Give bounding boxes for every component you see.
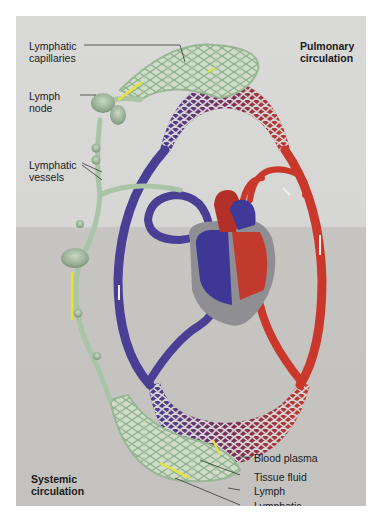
lymph-node-lower [61,248,89,268]
label-lymphatic-capillaries-bottom: Lymphatic capillaries [254,500,301,506]
label-lymph: Lymph [254,485,285,497]
blood-flow-arrow [283,188,290,195]
diagram-frame: Pulmonary circulation Systemic circulati… [16,16,366,506]
label-blood-plasma: Blood plasma [254,452,318,464]
label-tissue-fluid: Tissue fluid [254,471,307,483]
circulation-illustration [16,16,366,506]
label-lymphatic-capillaries-top: Lymphatic capillaries [29,40,76,64]
lymphatic-capillaries-top [120,45,258,100]
label-lymphatic-vessels: Lymphatic vessels [29,159,76,183]
label-lymph-node: Lymph node [29,90,60,114]
title-systemic-circulation: Systemic circulation [31,473,84,497]
title-pulmonary-circulation: Pulmonary circulation [300,40,354,64]
